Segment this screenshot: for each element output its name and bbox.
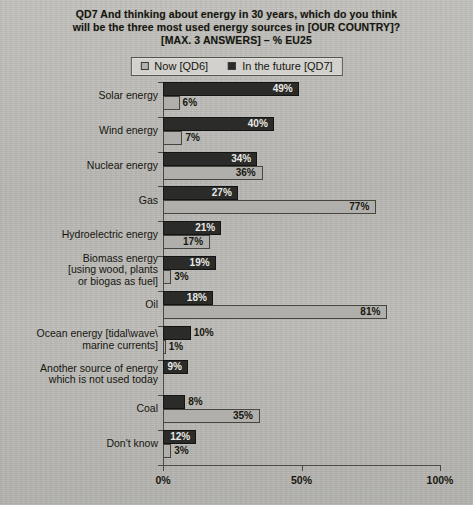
value-axis-tick <box>163 465 164 471</box>
bar-future[interactable]: 18% <box>163 291 213 305</box>
bar-now[interactable]: 17% <box>163 235 210 249</box>
value-axis-tick-label: 50% <box>291 474 312 486</box>
bar-now[interactable]: 1% <box>163 340 166 354</box>
category-label: Gas <box>8 195 158 207</box>
bar-value-label: 7% <box>185 133 199 143</box>
bar-value-label: 34% <box>231 154 251 164</box>
value-axis-tick <box>302 465 303 471</box>
bar-now[interactable]: 36% <box>163 166 263 180</box>
bar-value-label: 77% <box>349 202 369 212</box>
bar-value-label: 9% <box>167 362 181 372</box>
bar-value-label: 8% <box>188 397 202 407</box>
chart-row: Gas27%77% <box>0 186 473 214</box>
bar-future[interactable]: 9% <box>163 360 188 374</box>
bar-value-label: 17% <box>183 237 203 247</box>
bar-future[interactable]: 49% <box>163 82 299 96</box>
bar-value-label: 10% <box>194 328 214 338</box>
bar-future[interactable]: 8% <box>163 395 185 409</box>
category-label: Ocean energy [tidal\wave\ marine current… <box>8 328 158 351</box>
chart-legend: Now [QD6] In the future [QD7] <box>130 57 342 76</box>
value-axis-tick <box>440 465 441 471</box>
chart-row: Don't know12%3% <box>0 430 473 458</box>
chart-row: Biomass energy [using wood, plants or bi… <box>0 256 473 284</box>
bar-future[interactable]: 12% <box>163 430 196 444</box>
bar-value-label: 3% <box>174 446 188 456</box>
legend-swatch-now-icon <box>140 62 148 70</box>
category-label: Hydroelectric energy <box>8 229 158 241</box>
bar-now[interactable]: 35% <box>163 409 260 423</box>
chart-row: Ocean energy [tidal\wave\ marine current… <box>0 326 473 354</box>
bar-future[interactable]: 40% <box>163 117 274 131</box>
chart-title-line-3: [MAX. 3 ANSWERS] – % EU25 <box>0 34 473 47</box>
chart-row: Solar energy49%6% <box>0 82 473 110</box>
value-axis-line: 0%50%100% <box>163 465 440 466</box>
chart-sheet: QD7 And thinking about energy in 30 year… <box>0 0 473 505</box>
value-axis-tick-label: 0% <box>155 474 170 486</box>
bar-now[interactable]: 3% <box>163 444 171 458</box>
bar-value-label: 21% <box>195 223 215 233</box>
category-label: Nuclear energy <box>8 160 158 172</box>
bar-value-label: 18% <box>187 293 207 303</box>
legend-item-future[interactable]: In the future [QD7] <box>228 60 333 72</box>
bar-future[interactable]: 27% <box>163 186 238 200</box>
legend-label-future: In the future [QD7] <box>242 60 333 72</box>
legend-item-now[interactable]: Now [QD6] <box>140 60 208 72</box>
bar-value-label: 3% <box>174 272 188 282</box>
bar-value-label: 19% <box>190 258 210 268</box>
bar-now[interactable]: 77% <box>163 200 376 214</box>
category-label: Wind energy <box>8 125 158 137</box>
chart-title-line-2: will be the three most used energy sourc… <box>0 21 473 34</box>
category-label: Coal <box>8 403 158 415</box>
bar-value-label: 40% <box>248 119 268 129</box>
bar-future[interactable]: 10% <box>163 326 191 340</box>
bar-value-label: 35% <box>233 411 253 421</box>
bar-value-label: 27% <box>212 188 232 198</box>
category-label: Biomass energy [using wood, plants or bi… <box>8 253 158 288</box>
bar-value-label: 1% <box>169 342 183 352</box>
bar-now[interactable]: 7% <box>163 131 182 145</box>
plot-area: Solar energy49%6%Wind energy40%7%Nuclear… <box>0 82 473 462</box>
chart-row: Wind energy40%7% <box>0 117 473 145</box>
legend-label-now: Now [QD6] <box>154 60 208 72</box>
bar-value-label: 6% <box>183 98 197 108</box>
bar-now[interactable]: 6% <box>163 96 180 110</box>
chart-row: Another source of energy which is not us… <box>0 360 473 388</box>
category-label: Don't know <box>8 438 158 450</box>
bar-now[interactable]: 81% <box>163 305 387 319</box>
value-axis-tick-label: 100% <box>427 474 454 486</box>
chart-row: Oil18%81% <box>0 291 473 319</box>
bar-value-label: 36% <box>236 168 256 178</box>
legend-swatch-future-icon <box>228 62 236 70</box>
bar-future[interactable]: 21% <box>163 221 221 235</box>
bar-value-label: 12% <box>170 432 190 442</box>
category-label: Another source of energy which is not us… <box>8 363 158 386</box>
bar-value-label: 49% <box>273 84 293 94</box>
chart-title-line-1: QD7 And thinking about energy in 30 year… <box>0 8 473 21</box>
bar-now[interactable]: 3% <box>163 270 171 284</box>
chart-row: Nuclear energy34%36% <box>0 152 473 180</box>
chart-row: Coal8%35% <box>0 395 473 423</box>
chart-row: Hydroelectric energy21%17% <box>0 221 473 249</box>
bar-future[interactable]: 34% <box>163 152 257 166</box>
bar-value-label: 81% <box>360 307 380 317</box>
category-label: Oil <box>8 299 158 311</box>
chart-title: QD7 And thinking about energy in 30 year… <box>0 8 473 48</box>
bar-future[interactable]: 19% <box>163 256 216 270</box>
category-label: Solar energy <box>8 90 158 102</box>
